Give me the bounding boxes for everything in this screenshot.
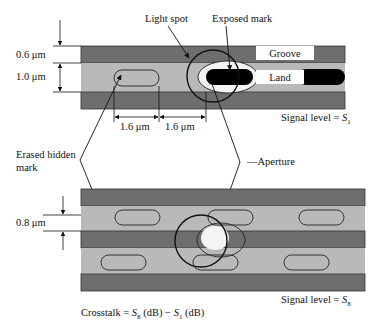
groove-width-label: 0.6 μm <box>16 50 46 61</box>
diagram-canvas <box>0 0 381 326</box>
bottom-dimensions <box>43 196 81 250</box>
groove-band-bottom <box>81 92 345 109</box>
signal-subscript: 1 <box>347 118 351 126</box>
signal-level-s1: Signal level = S1 <box>281 113 351 126</box>
erased-hidden-mark-label-1: Erased hidden <box>16 150 76 161</box>
exposed-mark-2 <box>298 69 345 85</box>
signal-level-prefix: Signal level = <box>281 112 342 123</box>
land-label: Land <box>256 70 304 84</box>
light-spot-label: Light spot <box>145 14 188 25</box>
aperture-text: Aperture <box>258 156 295 167</box>
land-width-label: 1.0 μm <box>16 72 46 83</box>
formula-prefix: Crosstalk = <box>81 307 132 318</box>
formula-unit-1: (dB) − <box>141 307 174 318</box>
groove-label: Groove <box>256 46 314 60</box>
crosstalk-formula: Crosstalk = S8 (dB) − S1 (dB) <box>81 308 204 321</box>
exposed-mark-label: Exposed mark <box>212 14 272 25</box>
signal-level-s8: Signal level = S8 <box>281 295 351 308</box>
spacing-label-1: 1.6 μm <box>120 122 150 133</box>
formula-unit-2: (dB) <box>182 307 204 318</box>
exposed-mark-1 <box>206 69 253 85</box>
aperture-label: —Aperture <box>247 157 295 168</box>
erased-hidden-mark-label-2: mark <box>16 163 38 174</box>
signal-level-prefix: Signal level = <box>281 294 342 305</box>
track-pitch-label: 0.8 μm <box>16 218 46 229</box>
bottom-track-panel <box>81 189 365 291</box>
erased-mark-top <box>114 70 159 86</box>
signal-subscript: 8 <box>347 300 351 308</box>
spacing-label-2: 1.6 μm <box>165 122 195 133</box>
